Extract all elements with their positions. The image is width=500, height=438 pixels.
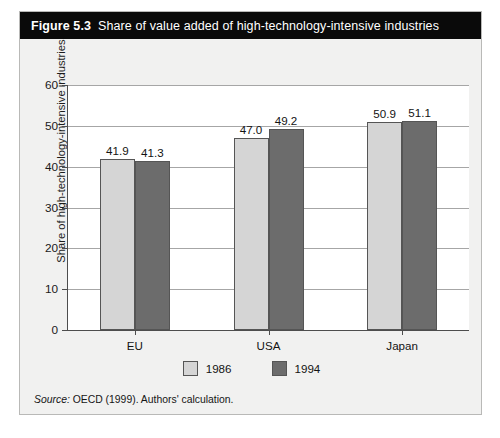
y-axis-tick-label: 0 (51, 323, 58, 337)
bar-value-label: 41.3 (141, 146, 164, 159)
bar-group: 41.941.3EU (100, 85, 170, 330)
y-axis-tick (62, 289, 68, 290)
source-label: Source: (34, 394, 70, 405)
y-axis-tick (62, 167, 68, 168)
y-axis-tick-label: 10 (45, 282, 58, 296)
bar-value-label: 50.9 (373, 107, 396, 120)
y-axis-tick (62, 208, 68, 209)
legend-label: 1986 (206, 362, 232, 375)
y-axis-tick (62, 85, 68, 86)
bar-value-label: 51.1 (408, 106, 431, 119)
bar[interactable]: 51.1 (402, 121, 437, 330)
y-axis-tick-label: 30 (45, 201, 58, 215)
y-axis-tick (62, 330, 68, 331)
y-axis-title: Share of high-technology-intensive indus… (55, 26, 67, 276)
x-axis-category-label: EU (127, 339, 143, 352)
legend-entry[interactable]: 1986 (183, 361, 232, 376)
chart-area: Share of high-technology-intensive indus… (20, 39, 482, 415)
y-axis-tick-label: 50 (45, 119, 58, 133)
figure-caption-bar: Figure 5.3 Share of value added of high-… (20, 12, 482, 39)
plot-inner: 41.941.3EU47.049.2USA50.951.1Japan (68, 85, 469, 330)
figure-container: Figure 5.3 Share of value added of high-… (19, 11, 482, 415)
legend-entry[interactable]: 1994 (272, 361, 321, 376)
y-axis-tick-label: 40 (45, 160, 58, 174)
x-axis-category-label: Japan (386, 339, 418, 352)
legend-swatch (183, 361, 198, 376)
y-axis-tick-label: 20 (45, 241, 58, 255)
x-axis-category-label: USA (257, 339, 281, 352)
plot-axes: 41.941.3EU47.049.2USA50.951.1Japan 01020… (67, 85, 469, 331)
bar-group: 50.951.1Japan (367, 85, 437, 330)
x-axis-tick (135, 330, 136, 335)
bar-value-label: 49.2 (275, 114, 298, 127)
bar[interactable]: 41.9 (100, 159, 135, 330)
bar-value-label: 47.0 (240, 123, 263, 136)
y-axis-tick (62, 126, 68, 127)
x-axis-tick (402, 330, 403, 335)
bar[interactable]: 41.3 (135, 161, 170, 330)
y-axis-tick-label: 60 (45, 78, 58, 92)
chart-legend: 19861994 (20, 361, 482, 376)
bar-group: 47.049.2USA (234, 85, 304, 330)
source-note: Source: OECD (1999). Authors' calculatio… (34, 394, 234, 405)
legend-label: 1994 (295, 362, 321, 375)
bar[interactable]: 47.0 (234, 138, 269, 330)
x-axis-tick (269, 330, 270, 335)
bar[interactable]: 50.9 (367, 122, 402, 330)
source-text: OECD (1999). Authors' calculation. (70, 394, 234, 405)
bar-value-label: 41.9 (106, 144, 129, 157)
figure-title: Share of value added of high-technology-… (98, 19, 439, 33)
legend-swatch (272, 361, 287, 376)
y-axis-tick (62, 248, 68, 249)
bar[interactable]: 49.2 (269, 129, 304, 330)
